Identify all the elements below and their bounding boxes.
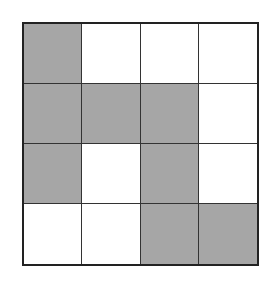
shaded-grid <box>22 22 259 266</box>
grid-cell-shaded <box>141 204 199 264</box>
grid-cell-shaded <box>24 84 82 144</box>
grid-cell-empty <box>82 144 140 204</box>
grid-cell-shaded <box>82 84 140 144</box>
grid-cell-empty <box>199 144 257 204</box>
grid-cell-empty <box>24 204 82 264</box>
grid-cell-shaded <box>141 84 199 144</box>
grid-cell-empty <box>82 24 140 84</box>
grid-cell-empty <box>199 24 257 84</box>
grid-cell-shaded <box>24 144 82 204</box>
grid-cell-shaded <box>199 204 257 264</box>
grid-cell-shaded <box>141 144 199 204</box>
grid-cell-empty <box>199 84 257 144</box>
grid-cell-shaded <box>24 24 82 84</box>
grid-cell-empty <box>141 24 199 84</box>
grid-cell-empty <box>82 204 140 264</box>
